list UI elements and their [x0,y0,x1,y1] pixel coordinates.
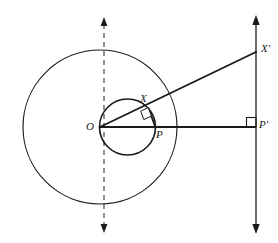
label-point-X-prime: X' [261,43,270,54]
label-point-O: O [86,121,94,132]
label-point-X: X [140,93,147,104]
point-marker-O [99,126,101,128]
label-point-P-prime: P' [259,119,268,130]
right-angle-at-P-prime [247,118,257,128]
geometry-figure: O P X X' P' [0,0,278,243]
dashed-axis-arrowhead-top [101,17,108,26]
right-angle-at-P-prime-square [247,118,257,128]
ray-O-X-X-prime [100,52,256,127]
solid-line-arrowhead-bottom [252,224,259,234]
point-marker-X-prime [255,51,257,53]
solid-line-arrowhead-top [252,15,259,25]
dashed-axis-arrowhead-bottom [101,224,108,233]
label-point-P: P [156,129,163,140]
geometry-canvas [0,0,278,243]
